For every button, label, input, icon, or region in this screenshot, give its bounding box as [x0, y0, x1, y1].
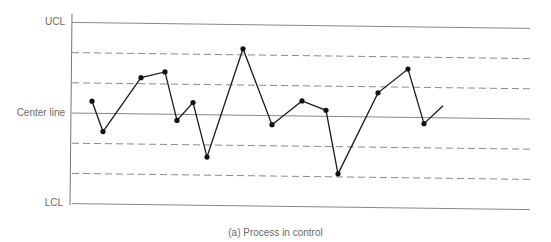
ucl-line — [72, 22, 530, 28]
lcl-label: LCL — [45, 197, 63, 208]
series-line — [92, 49, 443, 174]
data-point — [405, 66, 410, 71]
data-point — [138, 75, 143, 80]
reference-lines — [72, 22, 530, 209]
data-point — [100, 129, 105, 134]
data-point — [162, 69, 167, 74]
data-point — [375, 90, 380, 95]
data-point — [335, 171, 340, 176]
data-point — [299, 98, 304, 103]
y-axis — [70, 14, 72, 205]
data-point — [269, 122, 274, 127]
ucl-label: UCL — [45, 16, 65, 27]
data-point — [421, 121, 426, 126]
process-series — [89, 46, 443, 176]
data-point — [174, 118, 179, 123]
center-line-label: Center line — [17, 107, 65, 118]
-1-sigma-line — [72, 143, 530, 149]
control-chart — [0, 0, 551, 242]
-2-sigma-line — [72, 173, 530, 179]
lcl-line — [72, 204, 530, 210]
data-point — [89, 99, 94, 104]
center-line-line — [72, 113, 530, 119]
-1-sigma-line — [72, 83, 530, 89]
data-point — [190, 100, 195, 105]
data-point — [240, 46, 245, 51]
-2-sigma-line — [72, 53, 530, 59]
data-point — [323, 108, 328, 113]
chart-caption: (a) Process in control — [0, 227, 551, 238]
data-point — [204, 154, 209, 159]
